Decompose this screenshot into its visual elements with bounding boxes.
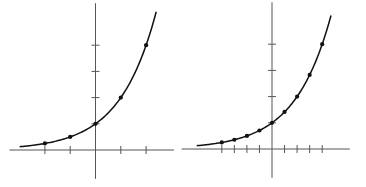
data-point xyxy=(295,95,299,99)
right-exponential-plot xyxy=(182,2,350,178)
data-point xyxy=(93,122,97,126)
data-point xyxy=(245,134,249,138)
data-point xyxy=(43,141,47,145)
exponential-curve xyxy=(197,15,331,145)
data-point xyxy=(320,42,324,46)
data-point xyxy=(308,73,312,77)
data-point xyxy=(282,110,286,114)
data-point xyxy=(144,43,148,47)
data-point xyxy=(270,121,274,125)
data-point xyxy=(232,138,236,142)
data-point xyxy=(257,128,261,132)
left-exponential-plot xyxy=(9,3,173,179)
chart-canvas xyxy=(0,0,366,187)
exponential-curve xyxy=(20,12,157,147)
data-point xyxy=(68,135,72,139)
data-point xyxy=(119,96,123,100)
data-point xyxy=(220,140,224,144)
